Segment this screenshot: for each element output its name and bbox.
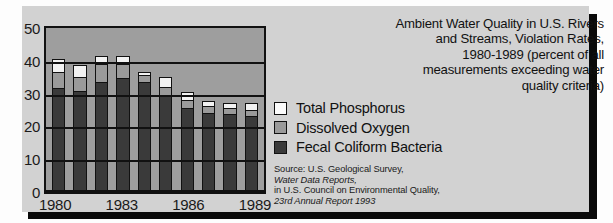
y-tick-label: 10 bbox=[24, 151, 40, 168]
x-tick-label-1983: 1983 bbox=[106, 196, 138, 213]
bar-segment-do bbox=[182, 101, 193, 109]
legend-label: Fecal Coliform Bacteria bbox=[296, 139, 442, 155]
legend-item: Fecal Coliform Bacteria bbox=[274, 139, 604, 155]
bar-slot bbox=[241, 30, 262, 190]
plot-area-wrapper: 01020304050 1980198319861989 bbox=[44, 26, 266, 194]
chart-title-line-1: Ambient Water Quality in U.S. Rivers bbox=[274, 16, 604, 31]
chart-title: Ambient Water Quality in U.S. Riversand … bbox=[274, 16, 604, 93]
gridline bbox=[46, 95, 264, 97]
x-axis-line bbox=[46, 190, 264, 192]
source-line-4: 23rd Annual Report 1993 bbox=[274, 196, 604, 207]
legend-label: Dissolved Oxygen bbox=[296, 120, 410, 136]
bar-segment-fc bbox=[96, 83, 107, 190]
bar-slot bbox=[176, 30, 197, 190]
source-note: Source: U.S. Geological Survey, Water Da… bbox=[274, 164, 604, 206]
bar-segment-fc bbox=[160, 97, 171, 190]
x-tick-label-1986: 1986 bbox=[172, 196, 204, 213]
chart-title-line-4: measurements exceeding water bbox=[274, 62, 604, 77]
plot-area bbox=[44, 26, 266, 194]
text-panel: Ambient Water Quality in U.S. Riversand … bbox=[274, 16, 604, 208]
bar-segment-do bbox=[96, 65, 107, 83]
gridline bbox=[46, 160, 264, 162]
legend-swatch-icon bbox=[274, 102, 287, 115]
bar-1989 bbox=[245, 103, 258, 190]
bar-1984 bbox=[138, 72, 151, 190]
legend-item: Total Phosphorus bbox=[274, 100, 604, 116]
bar-slot bbox=[198, 30, 219, 190]
bar-slot bbox=[219, 30, 240, 190]
y-tick-label: 30 bbox=[24, 85, 40, 102]
bar-segment-fc bbox=[203, 114, 214, 190]
legend-item: Dissolved Oxygen bbox=[274, 120, 604, 136]
legend-label: Total Phosphorus bbox=[296, 100, 405, 116]
y-tick-label: 20 bbox=[24, 118, 40, 135]
bar-segment-tp bbox=[74, 66, 85, 77]
y-axis: 01020304050 bbox=[20, 26, 44, 194]
bar-segment-fc bbox=[139, 83, 150, 190]
chart-card: 01020304050 1980198319861989 Ambient Wat… bbox=[22, 6, 589, 212]
bar-1986 bbox=[181, 92, 194, 190]
bar-group bbox=[48, 30, 262, 190]
bar-slot bbox=[91, 30, 112, 190]
bar-slot bbox=[134, 30, 155, 190]
chart-title-line-2: and Streams, Violation Rates, bbox=[274, 31, 604, 46]
x-tick-label-1980: 1980 bbox=[39, 196, 71, 213]
bar-segment-fc bbox=[53, 89, 64, 190]
bar-1988 bbox=[223, 103, 236, 190]
source-line-1: Source: U.S. Geological Survey, bbox=[274, 164, 604, 175]
bar-segment-fc bbox=[182, 109, 193, 190]
gridline bbox=[46, 62, 264, 64]
legend-swatch-icon bbox=[274, 121, 287, 134]
x-tick-label-1989: 1989 bbox=[239, 196, 271, 213]
bar-1983 bbox=[116, 56, 129, 190]
bar-1982 bbox=[95, 56, 108, 190]
bar-slot bbox=[48, 30, 69, 190]
legend-swatch-icon bbox=[274, 141, 287, 154]
bar-segment-fc bbox=[74, 92, 85, 190]
gridline bbox=[46, 127, 264, 129]
chart-legend: Total PhosphorusDissolved OxygenFecal Co… bbox=[274, 100, 604, 155]
bar-segment-do bbox=[117, 65, 128, 80]
bar-segment-tp bbox=[160, 78, 171, 88]
x-axis-labels: 1980198319861989 bbox=[44, 196, 266, 218]
source-line-2: Water Data Reports, bbox=[274, 175, 604, 186]
bar-slot bbox=[112, 30, 133, 190]
y-tick-label: 50 bbox=[24, 20, 40, 37]
y-tick-label: 40 bbox=[24, 52, 40, 69]
chart-figure: 01020304050 1980198319861989 Ambient Wat… bbox=[0, 0, 613, 223]
bar-segment-do bbox=[74, 78, 85, 93]
bar-1987 bbox=[202, 101, 215, 190]
chart-title-line-5: quality criteria) bbox=[274, 78, 604, 93]
bar-slot bbox=[69, 30, 90, 190]
bar-segment-do bbox=[53, 73, 64, 89]
chart-title-line-3: 1980-1989 (percent of all bbox=[274, 47, 604, 62]
source-line-3: in U.S. Council on Environmental Quality… bbox=[274, 185, 604, 196]
bar-slot bbox=[155, 30, 176, 190]
bar-1980 bbox=[52, 59, 65, 190]
